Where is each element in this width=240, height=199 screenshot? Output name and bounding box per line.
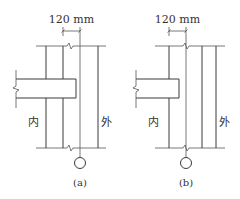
outer-label-b: 外 [219,116,230,129]
figure-a: 120 mm [13,13,112,188]
dimension-label-b: 120 mm [155,13,201,26]
dimension-label-a: 120 mm [49,13,95,26]
slab-a [13,70,76,108]
bottom-break-line-b [155,145,225,151]
outer-label-a: 外 [101,116,112,129]
figure-b: 120 mm 内 外 (b) [133,13,230,188]
axis-bubble-a [75,158,86,169]
dimension-b: 120 mm [155,13,201,36]
inner-label-a: 内 [28,115,39,129]
wall-slab-diagram: 120 mm [0,0,240,199]
axis-bubble-b [181,158,192,169]
dimension-a: 120 mm [49,13,95,36]
slab-b [133,70,179,108]
caption-a: (a) [73,177,87,188]
caption-b: (b) [179,177,193,188]
top-break-line-b [155,43,225,49]
inner-label-b: 内 [148,115,159,129]
